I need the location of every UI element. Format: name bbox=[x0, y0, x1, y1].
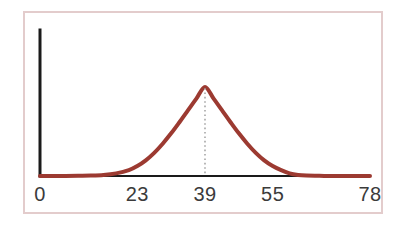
normal-distribution-chart: 0 23 39 55 78 bbox=[0, 0, 410, 226]
x-tick-label-55: 55 bbox=[261, 184, 284, 204]
x-tick-label-78: 78 bbox=[358, 184, 381, 204]
x-tick-label-23: 23 bbox=[126, 184, 149, 204]
x-tick-label-39: 39 bbox=[193, 184, 216, 204]
distribution-curve bbox=[40, 87, 370, 176]
x-tick-label-0: 0 bbox=[34, 184, 46, 204]
